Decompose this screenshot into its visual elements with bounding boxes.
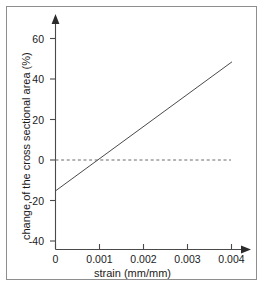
y-axis-title: change of the cross sectional area (%)	[20, 52, 32, 240]
plot-area	[0, 0, 265, 295]
x-tick-label: 0.003	[174, 254, 200, 265]
y-tick-label: 60	[10, 33, 44, 44]
y-tick-marks	[50, 39, 56, 242]
x-tick-label: 0.004	[218, 254, 244, 265]
data-series-line	[56, 62, 232, 191]
figure-container: 60 40 20 0 -20 -40 0 0.001 0.002 0.003 0…	[0, 0, 265, 295]
x-tick-label: 0	[53, 254, 59, 265]
x-axis-title: strain (mm/mm)	[0, 267, 265, 279]
y-axis-arrow-icon	[52, 14, 60, 24]
x-tick-label: 0.001	[86, 254, 112, 265]
x-tick-marks	[56, 244, 232, 250]
x-tick-label: 0.002	[130, 254, 156, 265]
